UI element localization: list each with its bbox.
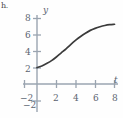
solution-curve xyxy=(37,24,115,67)
x-tick-label-4: 4 xyxy=(73,94,79,103)
plot-canvas xyxy=(0,0,123,118)
y-tick-label-2: 2 xyxy=(25,65,31,74)
y-tick-label-4: 4 xyxy=(25,48,31,57)
x-tick-label-minus2: −2 xyxy=(20,94,33,103)
y-axis-label: y xyxy=(43,6,48,15)
x-axis-label: t xyxy=(114,76,118,85)
x-tick-label-6: 6 xyxy=(93,94,99,103)
figure-container: h. y t 8 6 4 2 −2 −2 2 4 6 8 xyxy=(0,0,123,118)
x-tick-label-2: 2 xyxy=(53,94,59,103)
axes-group xyxy=(23,15,118,112)
y-tick-label-8: 8 xyxy=(25,14,31,23)
x-tick-label-8: 8 xyxy=(112,94,118,103)
y-tick-label-6: 6 xyxy=(25,31,31,40)
